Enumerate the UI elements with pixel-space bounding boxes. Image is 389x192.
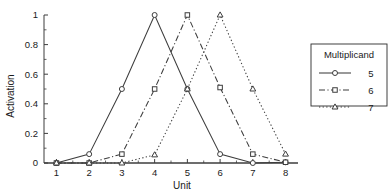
x-tick-label: 4 <box>152 167 157 178</box>
legend-label-7: 7 <box>368 102 373 113</box>
data-point-marker <box>251 152 256 157</box>
y-tick-label: 1 <box>33 9 38 20</box>
x-tick-label: 2 <box>87 167 92 178</box>
legend-marker-5 <box>333 71 338 76</box>
chart-figure: 00.20.40.60.81 12345678 Activation Unit … <box>0 0 389 192</box>
x-tick-label: 7 <box>250 167 255 178</box>
x-tick-label: 5 <box>185 167 190 178</box>
x-tick-label: 3 <box>119 167 124 178</box>
x-tick-label: 1 <box>54 167 59 178</box>
legend-label-5: 5 <box>368 68 373 79</box>
legend-marker-6 <box>333 88 338 93</box>
data-point-marker <box>119 87 124 92</box>
data-point-marker <box>120 152 125 157</box>
data-point-marker <box>218 152 223 157</box>
y-tick-label: 0 <box>33 157 38 168</box>
data-point-marker <box>87 152 92 157</box>
data-point-marker <box>185 13 190 18</box>
data-point-marker <box>152 87 157 92</box>
data-point-marker <box>283 160 288 165</box>
y-tick-label: 0.4 <box>25 98 38 109</box>
data-point-marker <box>250 161 255 166</box>
activation-line-chart: 00.20.40.60.81 12345678 Activation Unit … <box>0 0 389 192</box>
x-tick-label: 6 <box>217 167 222 178</box>
x-tick-label: 8 <box>283 167 288 178</box>
data-point-marker <box>152 13 157 18</box>
x-axis-title: Unit <box>173 180 191 191</box>
y-tick-label: 0.8 <box>25 39 38 50</box>
y-tick-label: 0.2 <box>25 128 38 139</box>
legend-label-6: 6 <box>368 85 373 96</box>
data-point-marker <box>218 85 223 90</box>
y-axis-title: Activation <box>5 74 16 117</box>
y-tick-label: 0.6 <box>25 69 38 80</box>
chart-legend[interactable]: Multiplicand 567 <box>311 44 387 113</box>
legend-title: Multiplicand <box>324 49 374 60</box>
